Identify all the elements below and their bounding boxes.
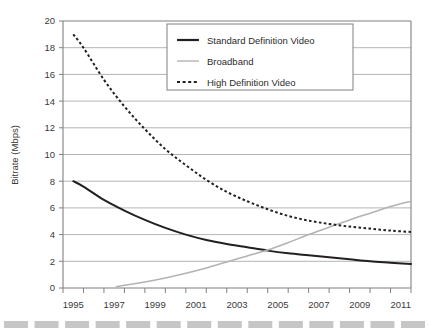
y-tick-label: 18 [44,42,55,53]
y-tick-label: 0 [50,282,55,293]
x-tick-label: 2011 [391,299,411,310]
footer-dash [279,321,303,328]
x-tick-label: 1995 [63,299,84,310]
y-tick-label: 2 [50,256,55,267]
y-tick-label: 20 [44,15,55,26]
x-axis-tick-labels: 199519971999200120032005200720092011 [63,299,411,310]
footer-dash [4,321,28,328]
x-tick-label: 2001 [185,299,206,310]
chart-legend: Standard Definition VideoBroadbandHigh D… [167,24,353,90]
x-tick-label: 2003 [226,299,247,310]
y-tick-label: 12 [44,122,55,133]
y-tick-label: 8 [50,176,55,187]
y-tick-label: 14 [44,96,55,107]
footer-dash [218,321,242,328]
y-axis-title: Bitrate (Mbps) [9,125,20,185]
footer-dash [370,321,394,328]
footer-dash [126,321,150,328]
line-chart: 02468101214161820 1995199719992001200320… [0,0,429,334]
x-tick-label: 2005 [267,299,288,310]
y-tick-label: 6 [50,202,55,213]
footer-dash [340,321,364,328]
x-tick-label: 1997 [104,299,125,310]
footer-dash [187,321,211,328]
footer-dash [65,321,89,328]
footer-dash [401,321,425,328]
footer-dash [248,321,272,328]
y-tick-label: 4 [50,229,55,240]
legend-item-label: High Definition Video [207,77,296,88]
chart-figure: 02468101214161820 1995199719992001200320… [0,0,429,334]
x-tick-label: 2009 [349,299,370,310]
x-tick-label: 1999 [145,299,166,310]
legend-item-label: Standard Definition Video [207,35,315,46]
footer-dash [96,321,120,328]
footer-dash [35,321,59,328]
footer-dash [309,321,333,328]
legend-item-label: Broadband [207,56,253,67]
x-tick-label: 2007 [308,299,329,310]
footer-dash [157,321,181,328]
y-tick-label: 10 [44,149,55,160]
y-tick-label: 16 [44,69,55,80]
